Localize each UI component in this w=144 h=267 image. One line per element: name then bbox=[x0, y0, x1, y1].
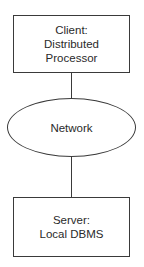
server-node: Server: Local DBMS bbox=[13, 197, 130, 257]
network-node: Network bbox=[7, 98, 136, 157]
client-node: Client: Distributed Processor bbox=[13, 15, 130, 73]
client-label-line-3: Processor bbox=[46, 51, 98, 65]
client-label-line-1: Client: bbox=[55, 23, 88, 37]
server-label-line-2: Local DBMS bbox=[40, 227, 104, 241]
client-label-line-2: Distributed bbox=[44, 37, 99, 51]
network-label: Network bbox=[50, 122, 92, 134]
connector-network-server bbox=[71, 157, 72, 197]
connector-client-network bbox=[71, 73, 72, 98]
server-label-line-1: Server: bbox=[53, 213, 90, 227]
